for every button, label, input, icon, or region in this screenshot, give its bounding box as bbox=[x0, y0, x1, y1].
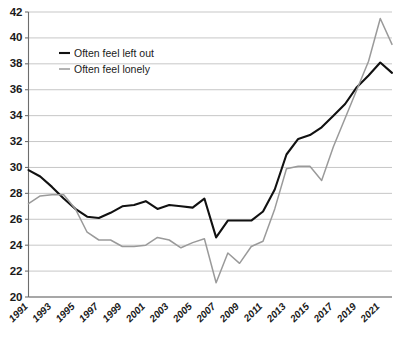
x-tick-label: 1997 bbox=[77, 300, 101, 324]
y-tick-label: 26 bbox=[10, 213, 23, 225]
x-tick-label: 2007 bbox=[193, 300, 218, 325]
x-tick-label: 2021 bbox=[357, 300, 382, 325]
x-tick-label: 1991 bbox=[6, 300, 30, 324]
x-tick-label: 2013 bbox=[264, 300, 289, 325]
y-tick-label: 24 bbox=[10, 239, 23, 251]
x-tick-label: 1999 bbox=[100, 300, 124, 324]
y-tick-label: 28 bbox=[10, 187, 23, 199]
y-tick-label: 42 bbox=[10, 6, 23, 18]
y-tick-label-group: 202224262830323436384042 bbox=[10, 6, 29, 303]
x-tick-label: 2001 bbox=[123, 300, 148, 325]
y-tick-label: 20 bbox=[10, 291, 23, 303]
y-tick-label: 30 bbox=[10, 161, 23, 173]
legend-label: Often feel left out bbox=[74, 47, 154, 59]
y-tick-label: 32 bbox=[10, 135, 23, 147]
y-tick-label: 36 bbox=[10, 83, 23, 95]
y-tick-label: 22 bbox=[10, 265, 23, 277]
series-line-often-feel-left-out bbox=[29, 63, 393, 238]
x-tick-label: 2017 bbox=[311, 300, 336, 325]
x-tick-label: 2015 bbox=[287, 300, 312, 325]
x-tick-label: 2019 bbox=[334, 300, 359, 325]
y-tick-label: 40 bbox=[10, 31, 23, 43]
x-tick-label: 2009 bbox=[217, 300, 242, 325]
chart-legend: Often feel left outOften feel lonely bbox=[59, 47, 154, 75]
x-tick-label: 1993 bbox=[30, 300, 54, 324]
x-tick-label-group: 1991199319951997199920012003200520072009… bbox=[6, 300, 382, 325]
chart-canvas: 202224262830323436384042 199119931995199… bbox=[0, 0, 397, 343]
legend-label: Often feel lonely bbox=[74, 63, 151, 75]
x-tick-label: 1995 bbox=[53, 300, 77, 324]
y-tick-label: 34 bbox=[10, 109, 23, 121]
y-tick-label: 38 bbox=[10, 57, 23, 69]
x-tick-label: 2003 bbox=[146, 300, 171, 325]
line-chart: 202224262830323436384042 199119931995199… bbox=[0, 0, 397, 343]
x-tick-label: 2005 bbox=[170, 300, 195, 325]
x-tick-label: 2011 bbox=[241, 300, 265, 324]
